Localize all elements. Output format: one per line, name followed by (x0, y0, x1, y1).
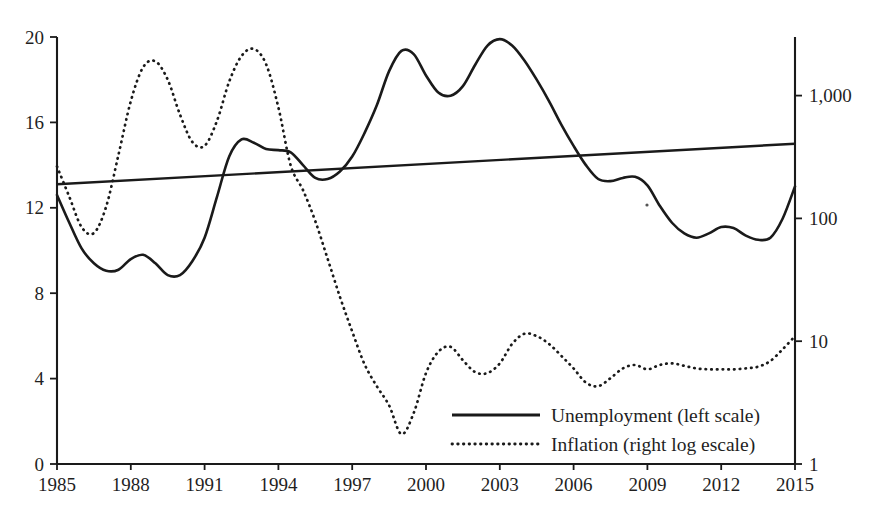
right-tick-label: 1,000 (809, 85, 852, 106)
bottom-tick-label: 1985 (38, 474, 76, 495)
bottom-tick-label: 2012 (702, 474, 740, 495)
left-axis-ticks: 048121620 (25, 27, 57, 475)
right-tick-label: 100 (809, 208, 838, 229)
left-tick-label: 20 (25, 27, 44, 48)
legend-label-inflation: Inflation (right log escale) (551, 434, 755, 456)
bottom-tick-label: 2009 (628, 474, 666, 495)
bottom-tick-label: 1997 (333, 474, 371, 495)
inflation-series (57, 49, 795, 435)
trend-line-series (57, 144, 795, 185)
bottom-tick-label: 2003 (481, 474, 519, 495)
chart-svg: 048121620 1101001,000 198519881991199419… (0, 0, 874, 514)
bottom-tick-label: 1988 (112, 474, 150, 495)
left-tick-label: 12 (25, 197, 44, 218)
unemployment-series (57, 39, 795, 277)
right-tick-label: 10 (809, 331, 828, 352)
chart-container: 048121620 1101001,000 198519881991199419… (0, 0, 874, 514)
bottom-tick-label: 2015 (776, 474, 814, 495)
bottom-tick-label: 1991 (186, 474, 224, 495)
legend-label-unemployment: Unemployment (left scale) (551, 405, 760, 427)
left-tick-label: 8 (35, 283, 45, 304)
left-tick-label: 0 (35, 454, 45, 475)
scan-speck (645, 203, 648, 206)
right-axis-ticks: 1101001,000 (795, 85, 852, 474)
left-tick-label: 4 (35, 368, 45, 389)
left-tick-label: 16 (25, 112, 44, 133)
bottom-axis-ticks: 1985198819911994199720002003200620092012… (38, 464, 814, 495)
bottom-tick-label: 2006 (555, 474, 593, 495)
bottom-tick-label: 2000 (407, 474, 445, 495)
bottom-tick-label: 1994 (259, 474, 298, 495)
chart-legend: Unemployment (left scale) Inflation (rig… (452, 405, 760, 456)
right-tick-label: 1 (809, 454, 819, 475)
